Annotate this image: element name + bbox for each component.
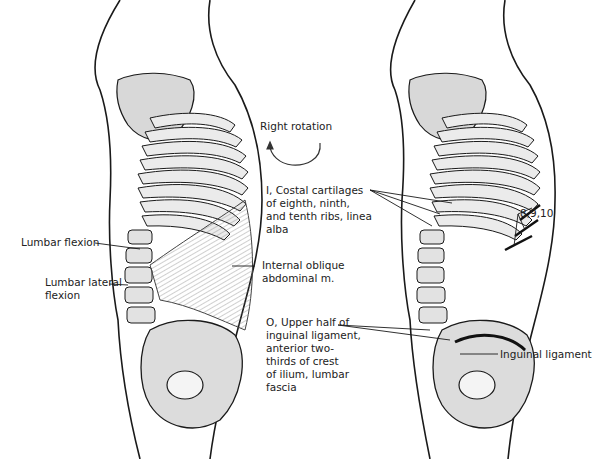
label-inguinal-ligament: Inguinal ligament [500, 348, 592, 361]
left-pelvis [141, 320, 242, 428]
left-spine [125, 230, 155, 323]
label-ribs-8-9-10: 8,9,10 [520, 207, 553, 220]
label-lumbar-lateral-flexion: Lumbar lateral flexion [45, 276, 122, 302]
right-pelvis [433, 320, 534, 428]
right-spine [417, 230, 447, 323]
rotation-arrow-icon [267, 142, 320, 165]
label-origin: O, Upper half of inguinal ligament, ante… [266, 316, 361, 394]
label-right-rotation: Right rotation [260, 120, 332, 133]
label-lumbar-flexion: Lumbar flexion [21, 236, 99, 249]
label-insertion: I, Costal cartilages of eighth, ninth, a… [266, 184, 372, 236]
right-ribcage [430, 113, 540, 240]
label-internal-oblique: Internal oblique abdominal m. [262, 259, 345, 285]
